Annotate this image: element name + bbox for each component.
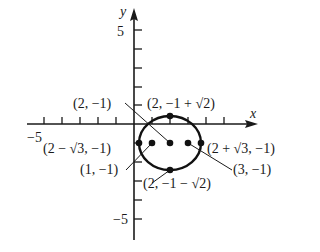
label-left-vertex: (2 − √3, −1) (43, 141, 111, 157)
top-vertex-point (167, 113, 174, 120)
left-focus-point (149, 140, 156, 147)
center-point (167, 140, 174, 147)
right-vertex-point (198, 140, 205, 147)
x-axis-label: x (249, 106, 257, 121)
label-right-vertex: (2 + √3, −1) (207, 141, 275, 157)
bottom-vertex-point (167, 167, 174, 174)
label-top-vertex: (2, −1 + √2) (147, 96, 215, 112)
label-center: (2, −1) (73, 96, 112, 112)
left-vertex-point (136, 140, 143, 147)
y-tick-label-neg5: −5 (113, 212, 128, 227)
y-axis-label: y (118, 4, 127, 19)
ellipse-diagram: x y 5 −5 −5 (2, −1) (2, −1 + √2) (2 − √3… (0, 0, 320, 252)
x-tick-label-neg5: −5 (27, 130, 42, 145)
y-tick-label-5: 5 (117, 24, 124, 39)
label-right-focus: (3, −1) (233, 162, 272, 178)
label-left-focus: (1, −1) (80, 162, 119, 178)
label-bottom-vertex: (2, −1 − √2) (143, 176, 211, 192)
right-focus-point (185, 140, 192, 147)
